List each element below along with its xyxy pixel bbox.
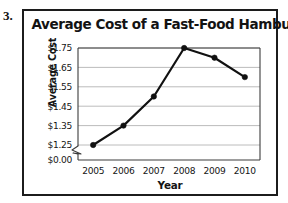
gridlines-group	[78, 48, 260, 145]
figure-container: 3. Average Cost of a Fast-Food Hamburger…	[0, 0, 288, 203]
x-tick-label: 2009	[204, 166, 226, 176]
data-point-marker	[212, 55, 217, 60]
data-point-marker	[90, 142, 95, 147]
x-tick-labels-group: 200520062007200820092010	[82, 166, 256, 176]
y-tick-label: $1.25	[47, 140, 72, 150]
y-tick-label: $0.00	[47, 155, 72, 165]
data-point-marker	[121, 123, 126, 128]
data-point-marker	[151, 94, 156, 99]
y-axis-break-icon	[72, 146, 81, 154]
data-line	[93, 48, 245, 145]
y-tick-label: $1.55	[47, 82, 72, 92]
x-tick-label: 2007	[143, 166, 165, 176]
chart-frame: Average Cost of a Fast-Food Hamburger Av…	[22, 9, 278, 196]
y-tick-labels-group: $1.75$1.65$1.55$1.45$1.35$1.25$0.00	[47, 43, 72, 165]
data-point-marker	[242, 74, 247, 79]
x-tick-label: 2010	[234, 166, 256, 176]
data-point-marker	[181, 45, 186, 50]
x-tick-label: 2005	[82, 166, 104, 176]
data-line-group	[93, 48, 245, 145]
x-tick-label: 2006	[113, 166, 135, 176]
axis-break-group	[72, 146, 81, 154]
line-chart-plot: $1.75$1.65$1.55$1.45$1.35$1.25$0.00 2005…	[24, 11, 280, 198]
x-tick-label: 2008	[173, 166, 195, 176]
question-number: 3.	[3, 8, 13, 24]
y-tick-label: $1.35	[47, 121, 72, 131]
plot-border-group	[78, 48, 260, 160]
y-tick-label: $1.65	[47, 63, 72, 73]
y-tick-label: $1.45	[47, 102, 72, 112]
y-tick-label: $1.75	[47, 43, 72, 53]
